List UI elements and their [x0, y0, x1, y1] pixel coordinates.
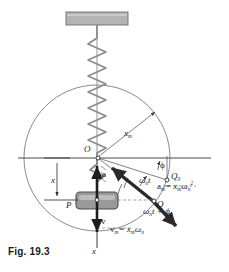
point-o-dot: [96, 156, 100, 160]
label-accel-equation: am= xmωn2: [157, 180, 193, 192]
radius-line-q0: [98, 158, 167, 180]
label-block-acceleration: a: [102, 169, 106, 179]
point-p-dot: [95, 198, 99, 202]
label-axis-x: x: [91, 246, 96, 256]
figure-caption: Fig. 19.3: [8, 246, 50, 257]
label-omega-t-phi: ωnt + ϕ: [143, 206, 170, 217]
label-amplitude: xm: [123, 128, 132, 139]
label-displacement: x: [50, 175, 55, 185]
omega-t-phi-angle-arc2: [118, 184, 122, 194]
label-omega-t: ωnt: [139, 175, 151, 186]
label-block-velocity: v: [101, 216, 106, 226]
figure-19-3: O xm ϕ Q0 ωnt Q ωnt + ϕ am= xmωn2 vm= xm…: [0, 0, 229, 272]
point-q-dot: [152, 199, 156, 203]
label-phase-angle: ϕ: [160, 160, 165, 170]
figure-canvas: O xm ϕ Q0 ωnt Q ωnt + ϕ am= xmωn2 vm= xm…: [0, 0, 229, 272]
label-point-p: P: [65, 200, 72, 210]
ceiling-support: [66, 12, 128, 25]
label-vel-equation: vm= xmωn: [110, 224, 144, 235]
label-origin: O: [84, 144, 91, 154]
